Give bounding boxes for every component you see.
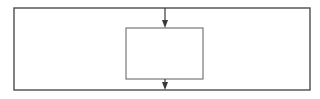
diagram-canvas	[0, 0, 320, 99]
bottom-arrow-head-icon	[162, 82, 168, 90]
top-arrow-head-icon	[162, 20, 168, 28]
bottom-arrow	[162, 79, 168, 90]
diagram-svg	[0, 0, 320, 99]
top-arrow	[162, 8, 168, 28]
outer-rectangle	[14, 8, 310, 90]
inner-rectangle	[126, 28, 203, 79]
